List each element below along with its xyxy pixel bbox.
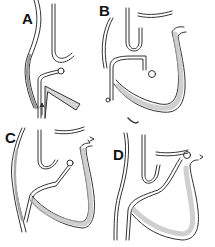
anatomical-figure: A B C D [0,0,215,247]
panel-label-b: B [99,3,110,18]
figure-drawing [0,0,215,247]
panel-d-drawing [114,118,203,240]
panel-b-drawing [102,8,186,112]
panel-label-d: D [113,147,124,162]
panel-label-c: C [5,130,16,145]
panel-label-a: A [22,11,33,26]
panel-a-drawing [25,0,80,118]
panel-c-drawing [11,127,94,232]
